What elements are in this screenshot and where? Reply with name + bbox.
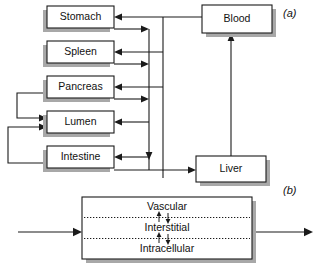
arrowhead-pancreas-bus: [141, 96, 149, 103]
stomach-label: Stomach: [60, 10, 102, 22]
liver-label: Liver: [220, 162, 243, 174]
flow-intestine-to-lumen: [8, 127, 47, 163]
arrowhead-stomach-bus: [141, 26, 149, 33]
spleen-label: Spleen: [64, 45, 97, 57]
compartment-label-vascular: Vascular: [147, 200, 188, 212]
arrowhead-blood-pancreas: [114, 84, 122, 91]
figure-container: Stomach Spleen Pancreas Lumen: [0, 0, 320, 276]
arrowhead-blood-intestine: [114, 154, 122, 161]
node-liver[interactable]: Liver: [196, 156, 270, 186]
arrowhead-blood-spleen: [114, 49, 122, 56]
panel-b-input-arrowhead: [73, 228, 82, 236]
arrowhead-bus-down: [146, 152, 153, 160]
node-lumen[interactable]: Lumen: [43, 111, 114, 137]
node-pancreas[interactable]: Pancreas: [43, 76, 114, 102]
node-spleen[interactable]: Spleen: [43, 41, 114, 67]
pancreas-label: Pancreas: [58, 80, 102, 92]
node-blood[interactable]: Blood: [202, 5, 276, 37]
arrowhead-intestine-liver: [188, 167, 196, 174]
panel-a-group: Stomach Spleen Pancreas Lumen: [8, 5, 297, 186]
panel-b-group: Vascular Interstitial Intracellular (b): [18, 184, 313, 263]
flow-pancreas-to-lumen: [17, 93, 47, 118]
blood-label: Blood: [224, 12, 251, 24]
compartment-label-interstitial: Interstitial: [145, 221, 190, 233]
intestine-label: Intestine: [61, 150, 101, 162]
arrowhead-spleen-bus: [141, 61, 149, 68]
lumen-label: Lumen: [64, 115, 96, 127]
panel-b-label: (b): [283, 184, 297, 196]
panel-b-output-arrowhead: [304, 228, 313, 236]
arrowhead-blood-stomach: [114, 14, 122, 21]
physiology-diagram: Stomach Spleen Pancreas Lumen: [0, 0, 320, 276]
compartment-label-intracellular: Intracellular: [140, 242, 195, 254]
node-intestine[interactable]: Intestine: [43, 146, 114, 172]
panel-a-label: (a): [283, 7, 297, 19]
node-compartment-model[interactable]: Vascular Interstitial Intracellular: [82, 197, 256, 263]
node-stomach[interactable]: Stomach: [43, 6, 114, 32]
arrowhead-blood-lumen: [114, 119, 122, 126]
